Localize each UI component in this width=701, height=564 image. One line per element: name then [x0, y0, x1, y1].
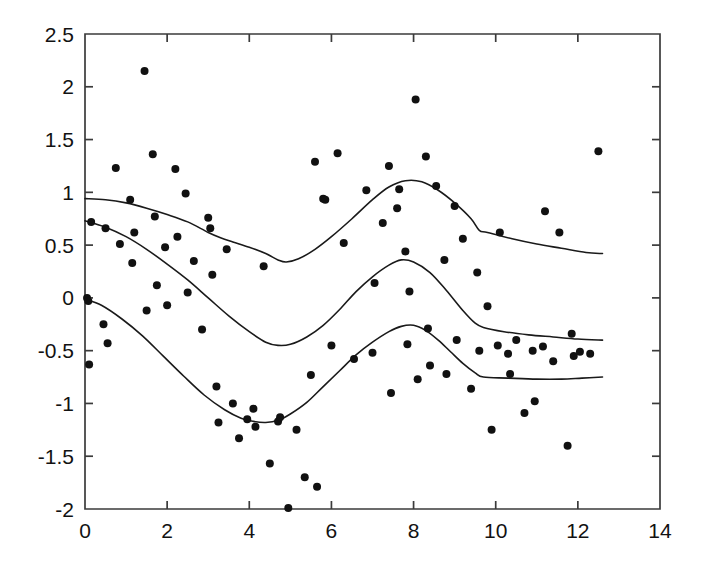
data-point: [539, 342, 547, 350]
data-point: [387, 389, 395, 397]
y-tick-label: -1: [55, 392, 74, 415]
y-tick-label: 0: [62, 286, 74, 309]
y-tick-label: 2: [62, 75, 74, 98]
x-tick-label: 0: [79, 519, 91, 542]
data-point: [87, 218, 95, 226]
data-point: [260, 262, 268, 270]
data-point: [104, 339, 112, 347]
data-point: [401, 247, 409, 255]
figure-container: 02468101214 -2-1.5-1-0.500.511.522.5: [0, 0, 701, 564]
data-point: [426, 361, 434, 369]
data-point: [84, 297, 92, 305]
data-point: [153, 281, 161, 289]
x-tick-label: 14: [648, 519, 672, 542]
plot-frame: [85, 34, 660, 509]
data-point: [488, 426, 496, 434]
data-point: [379, 219, 387, 227]
data-point: [249, 405, 257, 413]
data-point: [504, 350, 512, 358]
fitted-curves: [85, 180, 603, 422]
data-point: [184, 289, 192, 297]
data-point: [473, 269, 481, 277]
x-tick-label: 4: [243, 519, 255, 542]
data-point: [494, 341, 502, 349]
x-tick-label: 6: [326, 519, 338, 542]
data-point: [403, 340, 411, 348]
data-point: [422, 152, 430, 160]
data-point: [171, 165, 179, 173]
data-point: [327, 341, 335, 349]
data-point: [555, 228, 563, 236]
data-point: [301, 473, 309, 481]
data-point: [334, 149, 342, 157]
data-point: [576, 348, 584, 356]
data-point: [276, 413, 284, 421]
data-point: [102, 224, 110, 232]
data-point: [529, 347, 537, 355]
data-point: [99, 320, 107, 328]
data-point: [141, 67, 149, 75]
data-point: [85, 360, 93, 368]
data-point: [223, 245, 231, 253]
data-point: [143, 307, 151, 315]
x-axis-ticks: [167, 34, 578, 509]
data-point: [208, 271, 216, 279]
data-point: [116, 240, 124, 248]
data-point: [520, 409, 528, 417]
y-tick-label: 2.5: [45, 23, 74, 46]
data-point: [506, 370, 514, 378]
data-point: [405, 288, 413, 296]
data-point: [307, 371, 315, 379]
axes-frame: [85, 34, 660, 509]
y-tick-label: -2: [55, 498, 74, 521]
data-point: [512, 336, 520, 344]
x-axis-tick-labels: 02468101214: [79, 519, 672, 542]
data-point: [451, 202, 459, 210]
data-point: [163, 301, 171, 309]
data-point: [251, 423, 259, 431]
x-tick-label: 8: [408, 519, 420, 542]
data-point: [112, 164, 120, 172]
data-point: [198, 326, 206, 334]
data-point: [293, 426, 301, 434]
data-point: [126, 196, 134, 204]
data-point: [362, 186, 370, 194]
data-point: [369, 349, 377, 357]
data-point: [151, 213, 159, 221]
data-point: [541, 207, 549, 215]
data-point: [128, 259, 136, 267]
data-point: [594, 147, 602, 155]
data-point: [229, 399, 237, 407]
data-point: [311, 158, 319, 166]
data-point: [182, 189, 190, 197]
data-point: [395, 185, 403, 193]
data-point: [484, 302, 492, 310]
data-point: [414, 375, 422, 383]
data-point: [204, 214, 212, 222]
data-point: [564, 442, 572, 450]
data-point: [190, 257, 198, 265]
data-point: [475, 347, 483, 355]
y-tick-label: 1: [62, 181, 74, 204]
data-point: [321, 196, 329, 204]
data-point: [243, 415, 251, 423]
data-point: [350, 355, 358, 363]
data-point: [467, 385, 475, 393]
data-point: [549, 357, 557, 365]
data-point: [385, 162, 393, 170]
y-axis-ticks: [85, 87, 660, 456]
data-point: [453, 336, 461, 344]
data-point: [412, 95, 420, 103]
data-point: [586, 350, 594, 358]
data-point: [393, 204, 401, 212]
data-point: [531, 397, 539, 405]
data-point: [424, 325, 432, 333]
data-point: [214, 418, 222, 426]
data-point: [442, 370, 450, 378]
data-point: [568, 330, 576, 338]
data-point: [496, 228, 504, 236]
data-point: [432, 182, 440, 190]
data-point: [173, 233, 181, 241]
scatter-plot: 02468101214 -2-1.5-1-0.500.511.522.5: [0, 0, 701, 564]
scatter-points: [83, 67, 602, 512]
